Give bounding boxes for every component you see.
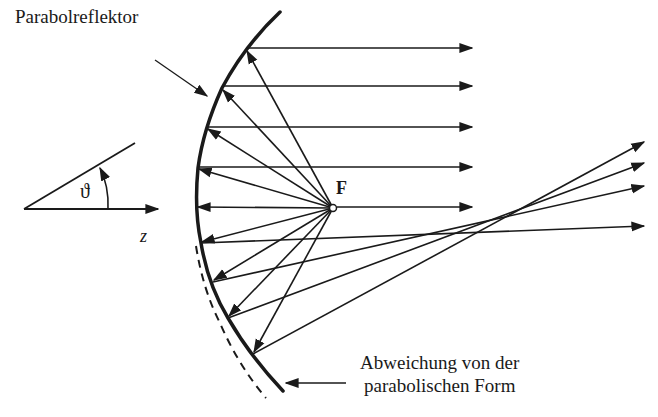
axis-label: z <box>140 226 147 247</box>
parabolic-reflector-diagram <box>0 0 658 417</box>
reflector-pointer-arrow <box>155 60 207 96</box>
deviation-label-line1: Abweichung von der <box>360 351 519 374</box>
parallel-rays <box>198 48 472 207</box>
deviation-label: Abweichung von der parabolischen Form <box>360 351 519 397</box>
angle-indicator <box>24 143 158 209</box>
focus-label: F <box>336 178 347 199</box>
focus-point-icon <box>330 205 337 212</box>
reflector-label: Parabolreflektor <box>15 6 138 28</box>
deviation-label-line2: parabolischen Form <box>360 374 519 397</box>
reflector-curve <box>197 12 283 391</box>
angle-label: ϑ <box>80 180 90 203</box>
